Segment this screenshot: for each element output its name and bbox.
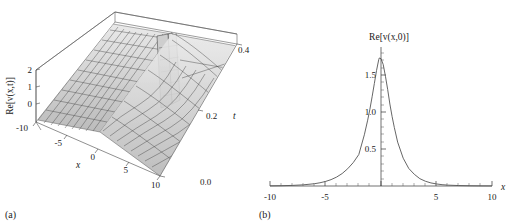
plot-title: Re[v(x,0)] [369, 32, 409, 43]
x-tick-0: 0 [91, 152, 96, 162]
x-tick--10: -10 [16, 123, 28, 133]
surface-mesh [38, 18, 237, 176]
x-tick-5: 5 [434, 192, 439, 202]
z-tick-2: 2 [28, 65, 33, 75]
t-tick-0p2: 0.2 [206, 111, 217, 121]
x-tick-10: 10 [151, 180, 161, 190]
x-tick-10: 10 [488, 192, 498, 202]
t-tick-0: 0.0 [200, 177, 212, 187]
y-tick-1p5: 1.5 [365, 70, 377, 80]
z-tick-1: 1 [28, 82, 33, 92]
x-axis-label: x [500, 182, 506, 192]
y-major-ticks [381, 75, 386, 149]
x-tick-5: 5 [124, 165, 129, 175]
line-plot-svg: Re[v(x,0)] [254, 0, 508, 210]
x-axis-label: x [75, 160, 81, 170]
y-tick-1p0: 1.0 [365, 107, 377, 117]
t-tick-0p4: 0.4 [238, 45, 250, 55]
panel-a-surface-plot: 2 1 0 Re[v(x,t)] -10 -5 0 5 10 [0, 0, 254, 223]
x-tick--5: -5 [321, 192, 329, 202]
x-tick--5: -5 [55, 138, 63, 148]
t-axis-label: t [233, 111, 236, 121]
panel-b-caption: (b) [259, 209, 271, 220]
y-minor-ticks [381, 53, 384, 179]
z-axis-label: Re[v(x,t)] [5, 77, 16, 115]
figure-container: 2 1 0 Re[v(x,t)] -10 -5 0 5 10 [0, 0, 508, 223]
panel-b-line-plot: Re[v(x,0)] [254, 0, 508, 223]
y-tick-0p5: 0.5 [365, 144, 377, 154]
panel-a-caption: (a) [5, 209, 16, 220]
z-tick-0: 0 [28, 99, 33, 109]
z-axis: 2 1 0 Re[v(x,t)] [5, 65, 40, 122]
surface-plot-svg: 2 1 0 Re[v(x,t)] -10 -5 0 5 10 [0, 0, 254, 210]
x-tick--10: -10 [264, 192, 276, 202]
